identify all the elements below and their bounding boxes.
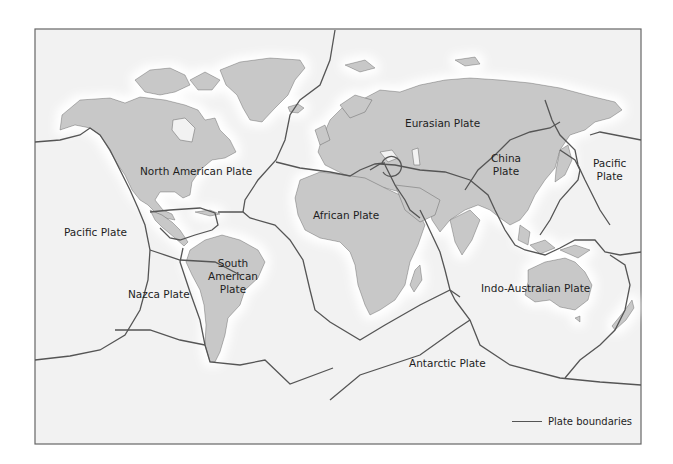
plate-label-china-line1: China xyxy=(491,152,521,165)
plate-label-south-american: South American Plate xyxy=(208,257,258,296)
plate-label-pacific-east-line2: Plate xyxy=(593,170,626,183)
legend-label: Plate boundaries xyxy=(548,416,632,427)
plate-label-nazca: Nazca Plate xyxy=(128,288,190,301)
plate-label-african: African Plate xyxy=(313,209,379,222)
plate-label-antarctic: Antarctic Plate xyxy=(409,357,486,370)
plate-label-south-american-line2: American xyxy=(208,270,258,283)
plate-label-pacific-east: Pacific Plate xyxy=(593,157,626,183)
plate-label-pacific-west: Pacific Plate xyxy=(64,226,127,239)
plate-label-south-american-line3: Plate xyxy=(208,283,258,296)
legend-line-swatch xyxy=(512,421,542,422)
plate-label-china: China Plate xyxy=(491,152,521,178)
plate-label-north-american: North American Plate xyxy=(140,165,252,178)
map-legend: Plate boundaries xyxy=(512,416,632,427)
plate-label-pacific-east-line1: Pacific xyxy=(593,157,626,170)
plate-label-eurasian: Eurasian Plate xyxy=(405,117,480,130)
plate-label-indo-australian: Indo-Australian Plate xyxy=(481,282,590,295)
plate-label-south-american-line1: South xyxy=(208,257,258,270)
plate-label-china-line2: Plate xyxy=(491,165,521,178)
